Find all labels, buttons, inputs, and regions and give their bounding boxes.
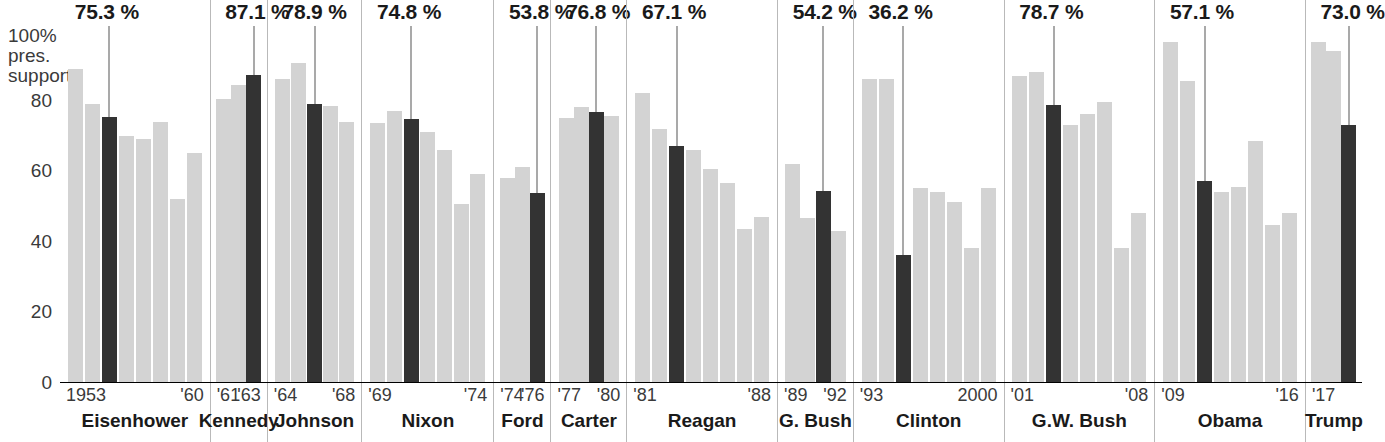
- bar[interactable]: [559, 118, 574, 382]
- bar[interactable]: [862, 79, 877, 382]
- bar[interactable]: [85, 104, 100, 382]
- bar[interactable]: [454, 204, 469, 382]
- bar[interactable]: [187, 153, 202, 382]
- bar[interactable]: [370, 123, 385, 382]
- bar[interactable]: [604, 116, 619, 382]
- bar[interactable]: [68, 69, 83, 382]
- president-group-g-bush: 54.2 %'89'92G. Bush: [777, 0, 853, 442]
- year-label-start: '64: [274, 385, 297, 405]
- bar-highlighted[interactable]: [896, 255, 911, 382]
- bar[interactable]: [339, 122, 354, 382]
- year-label-end: '63: [237, 385, 260, 405]
- bar[interactable]: [170, 199, 185, 382]
- bar-highlighted[interactable]: [1046, 105, 1061, 382]
- bar[interactable]: [136, 139, 151, 382]
- president-group-g-w-bush: 78.7 %'01'08G.W. Bush: [1004, 0, 1155, 442]
- bar[interactable]: [800, 218, 815, 382]
- bar-highlighted[interactable]: [1341, 125, 1356, 382]
- bar[interactable]: [1311, 42, 1326, 382]
- bar-highlighted[interactable]: [589, 112, 604, 382]
- bar[interactable]: [1214, 192, 1229, 382]
- bar-highlighted[interactable]: [246, 75, 261, 382]
- bar[interactable]: [275, 79, 290, 382]
- bar-slot: [736, 26, 753, 382]
- bar[interactable]: [437, 150, 452, 382]
- bar[interactable]: [879, 79, 894, 382]
- bar[interactable]: [216, 99, 231, 382]
- bar[interactable]: [1326, 51, 1341, 382]
- bar[interactable]: [1012, 76, 1027, 382]
- bar-slot: [1079, 26, 1096, 382]
- bar-slot: [84, 26, 101, 382]
- bar[interactable]: [1029, 72, 1044, 382]
- bar[interactable]: [737, 229, 752, 382]
- bar-slot: [186, 26, 203, 382]
- bar[interactable]: [574, 107, 589, 382]
- president-name: Carter: [561, 410, 617, 432]
- bar[interactable]: [947, 202, 962, 382]
- bar[interactable]: [1131, 213, 1146, 382]
- president-group-trump: 73.0 %'17Trump: [1305, 0, 1362, 442]
- bar[interactable]: [1163, 42, 1178, 382]
- bars-area: [1306, 26, 1362, 382]
- bar[interactable]: [1248, 141, 1263, 382]
- bar-slot: [515, 26, 530, 382]
- bar[interactable]: [1097, 102, 1112, 382]
- bar[interactable]: [785, 164, 800, 382]
- bar[interactable]: [1282, 213, 1297, 382]
- bar-slot: [719, 26, 736, 382]
- bar[interactable]: [231, 85, 246, 382]
- bar-slot: [436, 26, 453, 382]
- bar-highlighted[interactable]: [307, 104, 322, 382]
- bar-slot: [1247, 26, 1264, 382]
- bar[interactable]: [703, 169, 718, 382]
- bar-highlighted[interactable]: [530, 193, 545, 382]
- bar[interactable]: [635, 93, 650, 382]
- bar-slot: [369, 26, 386, 382]
- y-tick-40: 40: [31, 232, 52, 251]
- bar[interactable]: [831, 231, 846, 382]
- bar-highlighted[interactable]: [816, 191, 831, 382]
- bar[interactable]: [119, 136, 134, 382]
- bar[interactable]: [1180, 81, 1195, 382]
- bar[interactable]: [1231, 187, 1246, 382]
- year-label-end: '74: [464, 385, 487, 405]
- bar-highlighted[interactable]: [669, 146, 684, 382]
- bar-slot: [1011, 26, 1028, 382]
- callout-leader-line: [676, 26, 677, 146]
- bar[interactable]: [720, 183, 735, 382]
- bar-slot: [604, 26, 619, 382]
- bar[interactable]: [323, 106, 338, 382]
- bar[interactable]: [964, 248, 979, 382]
- bar[interactable]: [291, 63, 306, 382]
- bar[interactable]: [420, 132, 435, 382]
- x-axis-line: [60, 382, 1362, 383]
- bar[interactable]: [500, 178, 515, 382]
- year-label-start: '69: [368, 385, 391, 405]
- bar[interactable]: [686, 150, 701, 382]
- president-group-list: 75.3 %1953'60Eisenhower87.1 %'61'63Kenne…: [60, 0, 1362, 442]
- bar[interactable]: [1114, 248, 1129, 382]
- bar-highlighted[interactable]: [1197, 181, 1212, 382]
- bar[interactable]: [387, 111, 402, 382]
- bar-slot: [785, 26, 800, 382]
- year-band: 1953'60: [60, 382, 210, 408]
- callout-value: 73.0 %: [1321, 0, 1385, 24]
- bar[interactable]: [754, 217, 769, 382]
- bar[interactable]: [1080, 114, 1095, 382]
- bar[interactable]: [1063, 125, 1078, 382]
- year-label-end: '68: [332, 385, 355, 405]
- bar[interactable]: [1265, 225, 1280, 382]
- bar[interactable]: [153, 122, 168, 382]
- bar-slot: [1162, 26, 1179, 382]
- bar[interactable]: [981, 188, 996, 382]
- bar-highlighted[interactable]: [102, 117, 117, 382]
- bar[interactable]: [470, 174, 485, 382]
- bar[interactable]: [515, 167, 530, 382]
- bar[interactable]: [913, 188, 928, 382]
- bar[interactable]: [930, 192, 945, 382]
- bar[interactable]: [652, 129, 667, 382]
- year-band: '89'92: [778, 382, 853, 408]
- bar-highlighted[interactable]: [404, 119, 419, 382]
- bar-slot: [589, 26, 604, 382]
